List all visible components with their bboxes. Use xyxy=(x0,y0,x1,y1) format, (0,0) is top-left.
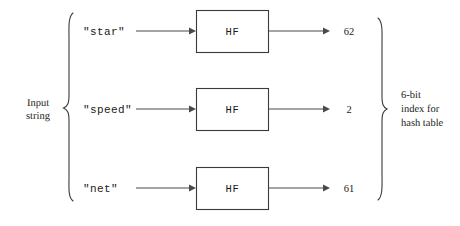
input-arrow-head-icon xyxy=(189,28,196,35)
left-brace-icon xyxy=(64,13,74,201)
input-arrow-head-icon xyxy=(189,185,196,192)
hash-index-value: 62 xyxy=(344,26,355,37)
hash-function-label: HF xyxy=(226,26,240,38)
input-string-label: "speed" xyxy=(83,104,132,116)
output-group-label-line3: hash table xyxy=(401,118,444,129)
flow-row: "net" HF 61 xyxy=(83,168,354,210)
hash-index-value: 2 xyxy=(346,104,351,115)
hash-function-label: HF xyxy=(226,183,240,195)
flow-row: "speed" HF 2 xyxy=(83,89,352,131)
hash-function-label: HF xyxy=(226,104,240,116)
output-arrow-head-icon xyxy=(323,185,330,192)
right-brace-icon xyxy=(378,18,387,200)
input-string-label: "net" xyxy=(83,183,118,195)
output-arrow-head-icon xyxy=(323,106,330,113)
output-group-label-line1: 6-bit xyxy=(401,90,421,101)
output-arrow-head-icon xyxy=(323,28,330,35)
flow-row: "star" HF 62 xyxy=(83,11,354,53)
hash-index-value: 61 xyxy=(344,183,355,194)
input-group-label-line1: Input xyxy=(27,98,49,109)
hash-function-diagram: Input string 6-bit index for hash table … xyxy=(0,0,460,226)
input-arrow-head-icon xyxy=(189,106,196,113)
input-group-label-line2: string xyxy=(26,111,51,122)
output-group-label-line2: index for xyxy=(401,104,440,115)
input-string-label: "star" xyxy=(83,26,125,38)
diagram-canvas: Input string 6-bit index for hash table … xyxy=(0,0,460,226)
